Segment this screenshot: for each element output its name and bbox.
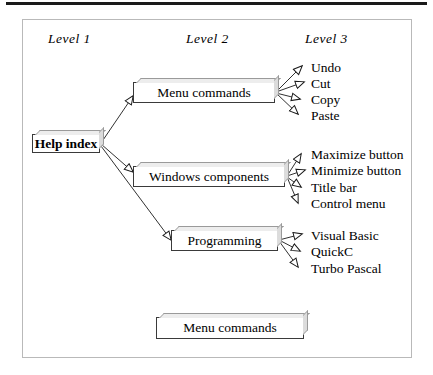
leaf-copy: Copy bbox=[311, 92, 340, 108]
leaf-cut: Cut bbox=[311, 76, 331, 92]
leaf-visual-basic: Visual Basic bbox=[311, 228, 379, 244]
column-header-level-2: Level 2 bbox=[186, 31, 229, 47]
leaf-quickc: QuickC bbox=[311, 244, 353, 260]
node-programming[interactable]: Programming bbox=[171, 230, 278, 251]
leaf-turbo-pascal: Turbo Pascal bbox=[311, 261, 381, 277]
leaf-title-bar: Title bar bbox=[311, 180, 357, 196]
node-menu-commands-label: Menu commands bbox=[157, 85, 250, 101]
leaf-paste: Paste bbox=[311, 108, 340, 124]
leaf-maximize-button: Maximize button bbox=[311, 147, 404, 163]
leaf-control-menu: Control menu bbox=[311, 196, 386, 212]
column-header-level-1: Level 1 bbox=[48, 31, 91, 47]
node-windows-components-label: Windows components bbox=[149, 169, 269, 185]
node-menu-commands[interactable]: Menu commands bbox=[133, 82, 275, 103]
leaf-undo: Undo bbox=[311, 60, 341, 76]
page-top-rule bbox=[6, 2, 427, 5]
node-help-index-label: Help index bbox=[35, 136, 98, 152]
node-bottom-menu-commands-label: Menu commands bbox=[183, 320, 276, 336]
node-programming-label: Programming bbox=[187, 233, 261, 249]
node-bottom-menu-commands[interactable]: Menu commands bbox=[156, 317, 304, 339]
column-header-level-3: Level 3 bbox=[305, 31, 348, 47]
node-help-index[interactable]: Help index bbox=[32, 134, 100, 153]
leaf-minimize-button: Minimize button bbox=[311, 163, 401, 179]
node-windows-components[interactable]: Windows components bbox=[133, 166, 285, 187]
